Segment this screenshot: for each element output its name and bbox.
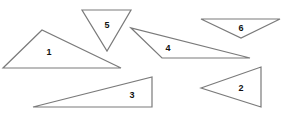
triangle-3: 3 xyxy=(33,77,152,107)
triangle-label: 6 xyxy=(238,23,243,33)
triangle-label: 1 xyxy=(46,47,51,57)
triangle-2: 2 xyxy=(201,67,261,107)
triangle-shape xyxy=(82,10,131,51)
triangle-label: 3 xyxy=(129,90,134,100)
triangle-5: 5 xyxy=(82,10,131,51)
triangle-label: 2 xyxy=(238,83,243,93)
triangle-label: 5 xyxy=(104,20,109,30)
triangle-6: 6 xyxy=(201,19,280,38)
triangle-label: 4 xyxy=(165,43,170,53)
triangles-diagram: 1 5 4 6 3 2 xyxy=(0,0,285,120)
triangle-shape xyxy=(201,67,261,107)
